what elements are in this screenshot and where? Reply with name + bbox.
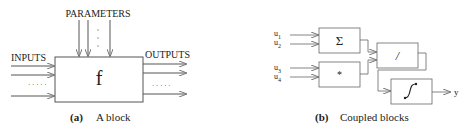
- diagram-canvas: f PARAMETERS INPUTS · · · · · OUTPUTS · …: [0, 0, 466, 134]
- integral-icon-dot-end: [415, 83, 417, 85]
- caption-b-tag: (b): [315, 111, 329, 124]
- caption-a-text: A block: [96, 111, 131, 123]
- panel-a: f PARAMETERS INPUTS · · · · · OUTPUTS · …: [11, 8, 190, 124]
- parameter-ellipsis-dot: [97, 45, 98, 46]
- block-f-symbol: f: [96, 67, 103, 89]
- parameters-label: PARAMETERS: [65, 8, 130, 19]
- outputs-ellipsis: · · · · ·: [152, 82, 171, 90]
- product-symbol: *: [337, 69, 342, 80]
- caption-a-tag: (a): [70, 111, 83, 124]
- output-y-label: y: [454, 87, 459, 97]
- inputs-ellipsis: · · · · ·: [28, 81, 47, 89]
- caption-b-text: Coupled blocks: [340, 111, 409, 123]
- inputs-label: INPUTS: [11, 52, 46, 63]
- product-to-divide-wire: [360, 60, 376, 74]
- parameter-ellipsis-dot: [97, 37, 98, 38]
- integral-icon-dot-start: [404, 97, 406, 99]
- integrate-block: [391, 79, 432, 104]
- sum-to-divide-wire: [360, 40, 376, 52]
- sum-symbol: Σ: [336, 33, 344, 48]
- outputs-label: OUTPUTS: [145, 49, 190, 60]
- parameter-ellipsis-dot: [97, 29, 98, 30]
- panel-b: u1 u2 u3 u4 Σ * / y (b) Coupled blo: [274, 28, 459, 124]
